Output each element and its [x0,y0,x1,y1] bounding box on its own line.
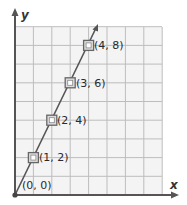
point-label-2: (2, 4) [57,114,87,127]
point-label-0: (0, 0) [22,179,52,192]
y-axis-label: y [21,8,30,22]
point-label-3: (3, 6) [76,77,106,90]
y-axis-arrow-icon [12,8,19,16]
x-axis-arrow-icon [171,192,179,199]
origin-point [12,192,17,197]
point-label-4: (4, 8) [94,39,124,52]
coordinate-plane: y x (0, 0) (1, 2) (2, 4) (3, 6) (4, 8) [0,0,187,205]
x-axis-label: x [169,178,179,192]
point-label-1: (1, 2) [39,151,69,164]
